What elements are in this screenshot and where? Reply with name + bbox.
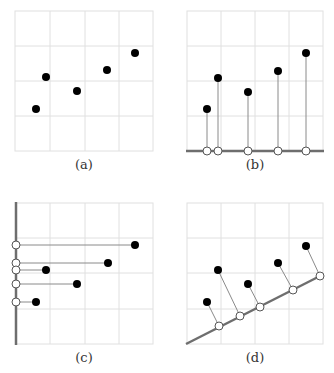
panel-c-grid — [16, 203, 153, 344]
panel-d-caption: (d) — [235, 350, 275, 365]
panel-a-grid — [15, 11, 153, 151]
figure — [0, 0, 334, 373]
panel-c-caption: (c) — [64, 350, 104, 365]
panel-d — [186, 203, 324, 344]
panel-a — [15, 11, 153, 151]
panel-b-caption: (b) — [235, 157, 275, 172]
panel-d-grid — [187, 203, 323, 344]
panel-c — [12, 202, 153, 345]
panel-a-caption: (a) — [64, 157, 104, 172]
panel-b — [186, 11, 324, 155]
panel-d-points — [203, 242, 310, 306]
panel-b-projections — [207, 53, 306, 151]
